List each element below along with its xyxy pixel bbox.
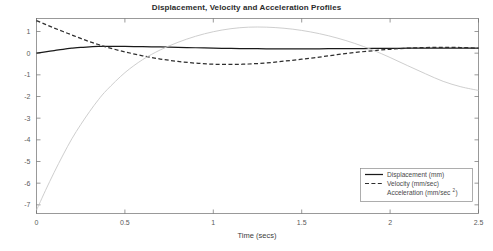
y-tick-label: 1 [27, 28, 31, 35]
x-tick-label: 1 [211, 219, 215, 226]
y-tick-label: 0 [27, 50, 31, 57]
x-axis-title: Time (secs) [238, 231, 277, 240]
x-tick-label: 0.5 [120, 219, 130, 226]
legend-label-suffix: ) [456, 189, 458, 197]
y-tick-label: -5 [24, 158, 30, 165]
x-tick-label: 2.5 [474, 219, 484, 226]
y-tick-label: -4 [24, 136, 30, 143]
x-tick-label: 2 [388, 219, 392, 226]
y-tick-label: -6 [24, 180, 30, 187]
y-tick-label: -2 [24, 93, 30, 100]
y-tick-label: -7 [24, 201, 30, 208]
legend-label: Acceleration (mm/sec [387, 189, 451, 197]
x-tick-label: 1.5 [297, 219, 307, 226]
chart-plot-area: 10-1-2-3-4-5-6-7 00.511.522.5 Time (secs… [0, 0, 493, 251]
y-tick-label: -1 [24, 71, 30, 78]
figure-canvas: Displacement, Velocity and Acceleration … [0, 0, 493, 251]
legend-label: Velocity (mm/sec) [387, 180, 439, 188]
legend-label: Displacement (mm) [387, 171, 444, 179]
chart-legend[interactable]: Displacement (mm)Velocity (mm/sec)Accele… [361, 169, 473, 202]
y-tick-label: -3 [24, 115, 30, 122]
x-tick-label: 0 [35, 219, 39, 226]
